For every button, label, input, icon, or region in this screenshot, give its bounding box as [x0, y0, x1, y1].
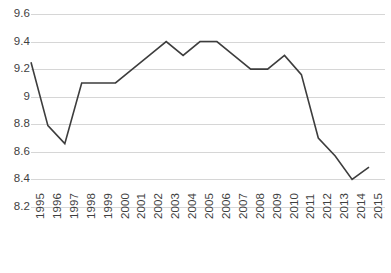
- x-tick-label: 2010: [289, 193, 301, 219]
- x-tick-label: 2000: [120, 193, 132, 219]
- x-tick-label: 2004: [187, 193, 199, 219]
- x-tick-label: 2013: [339, 193, 351, 219]
- x-tick-label: 2002: [153, 193, 165, 219]
- x-tick-label: 1998: [86, 193, 98, 219]
- x-tick-label: 2011: [305, 194, 317, 219]
- y-tick-label: 9.2: [0, 63, 30, 75]
- x-tick-label: 1995: [35, 193, 47, 219]
- line-chart: 8.28.48.68.899.29.49.6 19951996199719981…: [0, 0, 391, 273]
- x-axis: 1995199619971998199920002001200220032004…: [31, 207, 385, 273]
- series-line-1: [31, 42, 369, 180]
- x-tick-label: 2007: [238, 193, 250, 219]
- y-tick-label: 8.2: [0, 201, 30, 213]
- y-tick-label: 8.8: [0, 119, 30, 131]
- y-tick-label: 9: [0, 91, 30, 103]
- y-tick-label: 8.6: [0, 146, 30, 158]
- x-tick-label: 2001: [136, 193, 148, 219]
- y-tick-label: 9.6: [0, 8, 30, 20]
- y-axis: 8.28.48.68.899.29.49.6: [0, 0, 30, 273]
- x-tick-label: 2014: [356, 193, 368, 219]
- x-tick-label: 2003: [170, 193, 182, 219]
- x-tick-label: 2008: [255, 193, 267, 219]
- x-tick-label: 2015: [373, 193, 385, 219]
- x-tick-label: 1999: [103, 193, 115, 219]
- x-tick-label: 2012: [322, 193, 334, 219]
- y-tick-label: 8.4: [0, 174, 30, 186]
- x-tick-label: 1996: [52, 193, 64, 219]
- x-tick-label: 1997: [69, 193, 81, 219]
- y-tick-label: 9.4: [0, 36, 30, 48]
- x-tick-label: 2009: [272, 193, 284, 219]
- x-tick-label: 2005: [204, 193, 216, 219]
- x-tick-label: 2006: [221, 193, 233, 219]
